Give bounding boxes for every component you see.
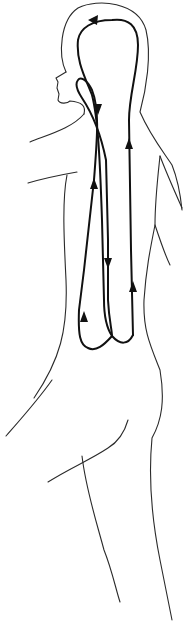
- arrow-up-icon: [129, 281, 137, 292]
- arrow-up-icon: [90, 178, 98, 189]
- arrow-up-icon: [80, 311, 88, 322]
- inner-loop-front: [76, 79, 112, 350]
- flow-loops: [76, 20, 138, 349]
- body-circulation-diagram: [0, 0, 190, 622]
- arrow-down-icon: [104, 258, 112, 269]
- inner-loop: [112, 335, 133, 343]
- arrow-up-icon: [125, 138, 133, 149]
- diagram-canvas: Human figure in profile with circulation…: [0, 0, 190, 622]
